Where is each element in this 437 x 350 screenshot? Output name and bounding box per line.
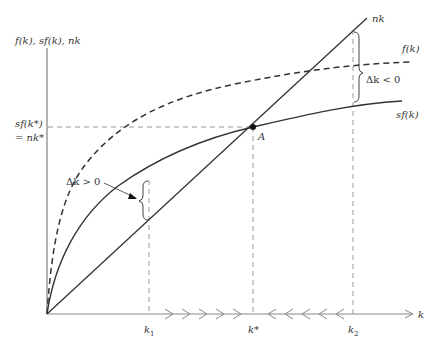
nk-label: nk bbox=[372, 13, 385, 24]
point-a-label: A bbox=[257, 131, 265, 142]
right-gap-label: Δk < 0 bbox=[366, 74, 400, 85]
steady-state-y-label-2: = nk* bbox=[15, 132, 44, 143]
sf-k-label: sf(k) bbox=[396, 109, 419, 120]
f-k-label: f(k) bbox=[401, 43, 420, 54]
k-star-tick-label: k* bbox=[248, 324, 259, 335]
steady-state-y-label-1: sf(k*) bbox=[15, 118, 43, 129]
f-k-curve bbox=[47, 62, 412, 314]
x-axis-label: k bbox=[418, 309, 424, 320]
left-gap-label: Δk > 0 bbox=[66, 176, 100, 187]
steady-state-point bbox=[250, 124, 256, 130]
y-axis-label: f(k), sf(k), nk bbox=[14, 35, 80, 46]
nk-line bbox=[47, 18, 367, 314]
right-gap-brace-icon bbox=[354, 32, 363, 102]
solow-diagram: f(k), sf(k), nk sf(k*) = nk* k nk f(k) s… bbox=[0, 0, 437, 350]
k2-tick-label: k2 bbox=[348, 324, 359, 338]
left-gap-arrowhead-icon bbox=[128, 193, 137, 199]
k1-tick-label: k1 bbox=[144, 324, 155, 338]
left-gap-brace-icon bbox=[139, 181, 148, 220]
sf-k-curve bbox=[47, 101, 402, 314]
